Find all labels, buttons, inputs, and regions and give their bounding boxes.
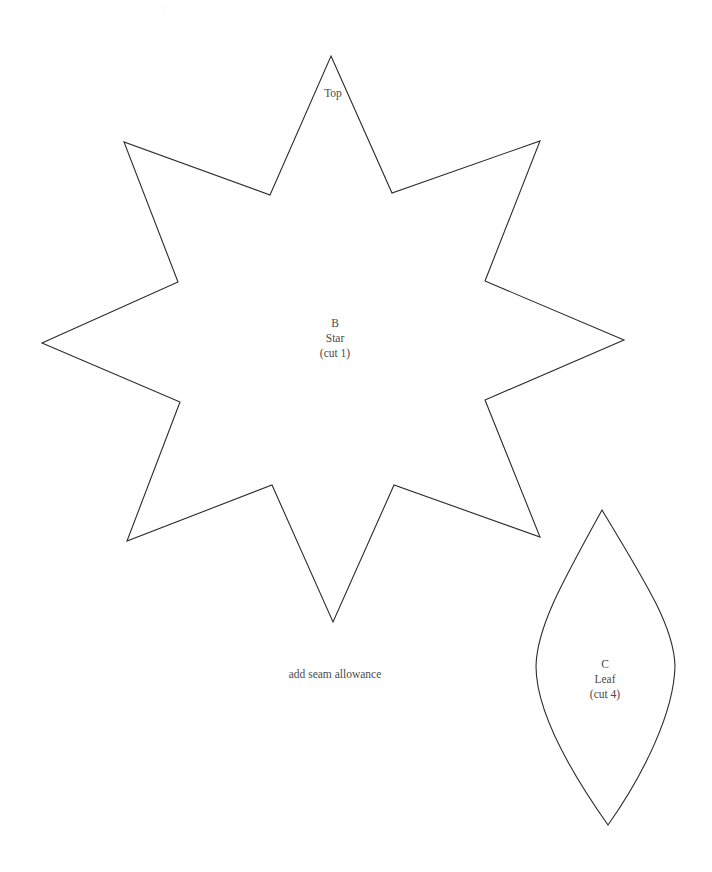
seam-allowance-text: add seam allowance (255, 667, 415, 682)
star-piece-cut-count: (cut 1) (275, 346, 395, 361)
seam-allowance-note: add seam allowance (255, 667, 415, 682)
leaf-piece-name: Leaf (545, 672, 665, 687)
star-piece-letter: B (275, 316, 395, 331)
star-orientation-label: Top (283, 86, 383, 101)
leaf-piece-letter: C (545, 657, 665, 672)
pattern-sheet: Top B Star (cut 1) add seam allowance C … (0, 0, 712, 872)
leaf-piece-cut-count: (cut 4) (545, 687, 665, 702)
pattern-drawing-canvas (0, 0, 712, 872)
star-piece-name: Star (275, 331, 395, 346)
star-orientation-text: Top (283, 86, 383, 101)
star-piece-label: B Star (cut 1) (275, 316, 395, 362)
leaf-piece-label: C Leaf (cut 4) (545, 657, 665, 703)
